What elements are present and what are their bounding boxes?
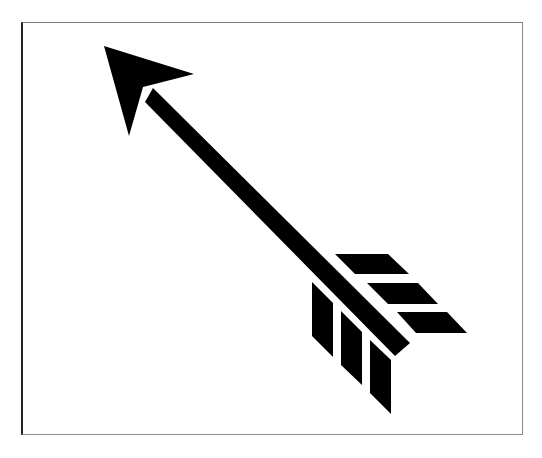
- arrow-shaft: [145, 88, 410, 356]
- fletching-right-3: [397, 312, 467, 333]
- fletching-left-2: [341, 311, 362, 385]
- fletching-left-3: [370, 340, 391, 414]
- fletching-left-1: [312, 282, 333, 357]
- arrow-icon: [0, 0, 542, 458]
- fletching-right-2: [367, 283, 438, 304]
- image-canvas: Black silhouette of an arrow pointing up…: [0, 0, 542, 458]
- fletching-right-1: [335, 254, 409, 274]
